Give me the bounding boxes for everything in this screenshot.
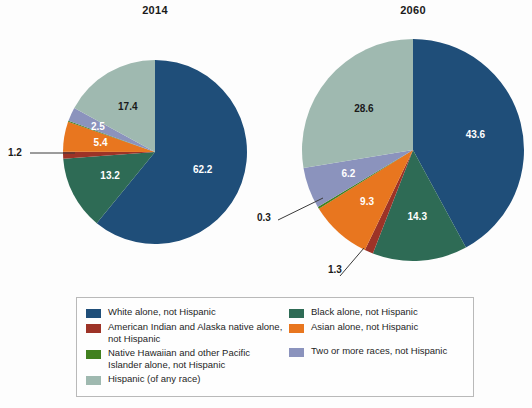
pie-chart-figure: 2014 2060 62.2 13.2 5.4 2.5 17.4 1.2 43.… [0, 0, 532, 408]
legend-swatch-icon [289, 309, 304, 318]
chart-legend: White alone, not HispanicAmerican Indian… [76, 297, 474, 397]
legend-item-label: American Indian and Alaska native alone,… [108, 321, 286, 344]
slice-label-black-2014: 13.2 [100, 170, 120, 181]
legend-item-label: Asian alone, not Hispanic [311, 321, 418, 333]
pie-2014-svg: 62.2 13.2 5.4 2.5 17.4 [62, 59, 248, 245]
legend-item-label: Black alone, not Hispanic [311, 306, 418, 318]
legend-swatch-icon [86, 309, 101, 318]
legend-column-left: White alone, not HispanicAmerican Indian… [86, 306, 286, 388]
legend-item[interactable]: Asian alone, not Hispanic [289, 321, 471, 333]
legend-swatch-icon [289, 348, 304, 357]
slice-label-white-2014: 62.2 [193, 164, 213, 175]
legend-swatch-icon [289, 324, 304, 333]
legend-item[interactable]: White alone, not Hispanic [86, 306, 286, 318]
legend-swatch-icon [86, 324, 101, 333]
slice-label-black-2060: 14.3 [408, 211, 428, 222]
leader-line-amind-2014 [30, 140, 75, 164]
legend-item-label: Hispanic (of any race) [108, 373, 200, 385]
legend-item-label: Two or more races, not Hispanic [311, 345, 447, 357]
leader-line-nhpi-2060 [278, 196, 323, 222]
slice-label-hispanic-2014: 17.4 [118, 101, 138, 112]
pie-chart-2060: 43.6 14.3 9.3 6.2 28.6 [301, 38, 525, 262]
legend-item[interactable]: Two or more races, not Hispanic [289, 345, 471, 357]
legend-item[interactable]: American Indian and Alaska native alone,… [86, 321, 286, 344]
slice-label-asian-2060: 9.3 [360, 196, 374, 207]
legend-column-right: Black alone, not HispanicAsian alone, no… [289, 306, 471, 360]
slice-label-amind-2060: 1.3 [328, 264, 342, 275]
legend-item[interactable]: Black alone, not Hispanic [289, 306, 471, 318]
slice-label-nhpi-2060: 0.3 [257, 212, 271, 223]
pie-chart-2014: 62.2 13.2 5.4 2.5 17.4 [62, 59, 248, 245]
pie-2060-svg: 43.6 14.3 9.3 6.2 28.6 [301, 38, 525, 262]
slice-label-hispanic-2060: 28.6 [354, 103, 374, 114]
legend-item[interactable]: Hispanic (of any race) [86, 373, 286, 385]
leader-line-amind-2060 [338, 248, 372, 276]
slice-label-white-2060: 43.6 [466, 129, 486, 140]
legend-swatch-icon [86, 350, 101, 359]
slice-label-amind-2014: 1.2 [8, 147, 22, 158]
legend-item[interactable]: Native Hawaiian and other Pacific Island… [86, 347, 286, 370]
legend-item-label: Native Hawaiian and other Pacific Island… [108, 347, 286, 370]
legend-item-label: White alone, not Hispanic [108, 306, 216, 318]
chart-title-2060: 2060 [363, 4, 463, 16]
slice-label-asian-2014: 5.4 [94, 137, 108, 148]
legend-swatch-icon [86, 376, 101, 385]
slice-label-two-or-more-2060: 6.2 [341, 168, 355, 179]
chart-title-2014: 2014 [105, 4, 205, 16]
slice-label-two-or-more-2014: 2.5 [91, 121, 105, 132]
